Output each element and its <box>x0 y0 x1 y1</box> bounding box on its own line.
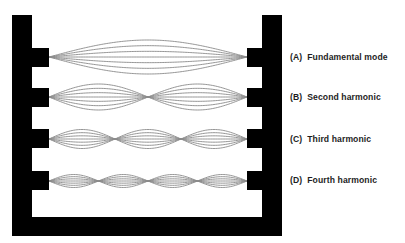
label-tag: (C) <box>290 134 302 144</box>
right-tab-a <box>247 48 262 67</box>
left-post <box>12 15 32 236</box>
right-tab-b <box>247 88 262 107</box>
label-mode-d: (D)Fourth harmonic <box>290 175 377 185</box>
string-mode-b <box>49 84 247 110</box>
label-mode-b: (B)Second harmonic <box>290 92 381 102</box>
label-mode-c: (C)Third harmonic <box>290 134 371 144</box>
left-tab-a <box>32 48 49 67</box>
string-frame <box>12 15 282 236</box>
label-tag: (A) <box>290 52 302 62</box>
string-mode-a <box>49 40 247 74</box>
label-text: Third harmonic <box>307 134 371 144</box>
vibrating-strings <box>49 40 247 188</box>
label-tag: (B) <box>290 92 302 102</box>
right-tab-d <box>247 171 262 190</box>
left-tab-b <box>32 88 49 107</box>
left-tab-d <box>32 171 49 190</box>
string-mode-d <box>49 175 247 188</box>
label-text: Fourth harmonic <box>307 175 377 185</box>
label-text: Fundamental mode <box>307 52 387 62</box>
label-text: Second harmonic <box>307 92 381 102</box>
left-tab-c <box>32 129 49 148</box>
standing-wave-diagram <box>0 0 405 243</box>
bottom-bar <box>12 217 282 236</box>
right-tab-c <box>247 129 262 148</box>
label-tag: (D) <box>290 175 302 185</box>
string-mode-c <box>49 130 247 149</box>
label-mode-a: (A)Fundamental mode <box>290 52 388 62</box>
right-post <box>262 15 282 236</box>
